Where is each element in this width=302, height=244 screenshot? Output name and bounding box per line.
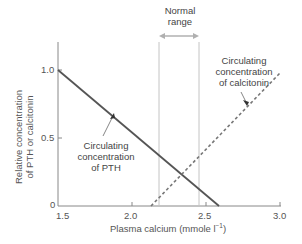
pth-annotation-label: Circulating concentration of PTH <box>72 140 140 173</box>
x-tick-label-2.5: 2.5 <box>198 210 211 221</box>
calcitonin-label-line3: of calcitonin <box>206 77 282 88</box>
calcitonin-line <box>151 73 280 206</box>
calcitonin-pointer-arrow-icon <box>241 92 249 106</box>
pth-label-line1: Circulating <box>72 140 140 151</box>
normal-range-arrow-icon <box>159 33 199 39</box>
pth-pointer-arrow-icon <box>103 113 115 136</box>
pth-line <box>58 70 219 206</box>
y-tick-label-0.5: 0.5 <box>41 132 54 143</box>
normal-range-label: Normal range <box>158 5 202 27</box>
calcitonin-label-line2: concentration <box>206 66 282 77</box>
y-axis-label: Relative concentration of PTH or calcito… <box>13 77 35 197</box>
calcitonin-label-line1: Circulating <box>206 55 282 66</box>
normal-range-label-line2: range <box>158 16 202 27</box>
calcitonin-annotation-label: Circulating concentration of calcitonin <box>206 55 282 88</box>
x-tick-label-1.5: 1.5 <box>56 210 69 221</box>
x-tick-label-2.0: 2.0 <box>124 210 137 221</box>
y-axis-label-line1: Relative concentration <box>13 77 24 197</box>
x-axis-label-close: ) <box>223 223 226 234</box>
x-axis-label-text: Plasma calcium (mmole l <box>110 223 216 234</box>
pth-label-line2: concentration <box>72 151 140 162</box>
normal-range-label-line1: Normal <box>158 5 202 16</box>
pth-label-line3: of PTH <box>72 162 140 173</box>
x-axis-label-exponent: −1 <box>216 222 223 229</box>
x-axis-label: Plasma calcium (mmole l−1) <box>110 222 226 234</box>
x-tick-label-3.0: 3.0 <box>273 210 286 221</box>
chart-canvas <box>0 0 302 244</box>
y-axis-label-line2: of PTH or calcitonin <box>24 77 35 197</box>
y-tick-label-1.0: 1.0 <box>41 64 54 75</box>
y-tick-label-0: 0 <box>50 199 55 210</box>
